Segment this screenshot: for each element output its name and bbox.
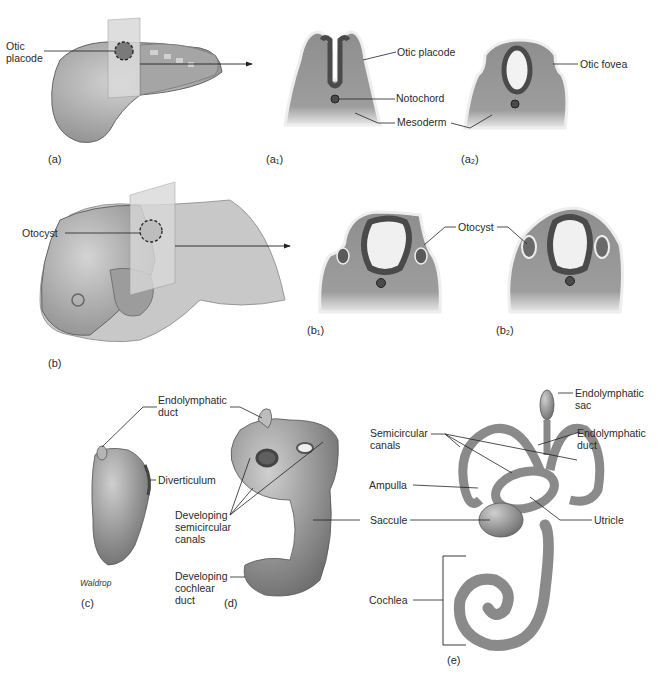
label-endolymphatic-duct-c: Endolymphatic duct xyxy=(158,394,227,418)
artist-credit: Waldrop xyxy=(80,578,112,588)
label-mesoderm: Mesoderm xyxy=(397,116,447,128)
label-utricle: Utricle xyxy=(594,514,624,526)
section-a1 xyxy=(285,32,380,125)
panel-label-e: (e) xyxy=(447,654,460,666)
panel-label-c: (c) xyxy=(81,597,94,609)
panel-label-d: (d) xyxy=(224,597,237,609)
panel-label-a: (a) xyxy=(48,153,61,165)
label-endolymphatic-sac: Endolymphatic sac xyxy=(575,387,644,411)
section-b1 xyxy=(320,212,441,312)
label-otocyst-b1: Otocyst xyxy=(458,221,494,233)
panel-label-a2: (a₂) xyxy=(461,153,479,165)
labyrinth-d xyxy=(231,409,338,596)
label-ampulla: Ampulla xyxy=(369,479,407,491)
panel-label-b2: (b₂) xyxy=(496,324,514,336)
panel-label-b1: (b₁) xyxy=(307,324,324,336)
section-a2 xyxy=(465,40,567,128)
embryo-a xyxy=(52,18,222,143)
label-developing-cochlear-duct: Developing cochlear duct xyxy=(175,570,228,606)
section-b2 xyxy=(509,208,623,312)
label-otic-fovea: Otic fovea xyxy=(580,58,627,70)
label-semicircular-canals: Semicircular canals xyxy=(370,427,428,451)
otic-vesicle-c xyxy=(92,446,150,565)
label-otic-placode-a: Otic placode xyxy=(6,40,43,64)
panel-label-b: (b) xyxy=(48,357,61,369)
label-cochlea: Cochlea xyxy=(369,594,408,606)
label-saccule: Saccule xyxy=(370,514,407,526)
label-diverticulum: Diverticulum xyxy=(158,474,216,486)
label-developing-semicircular-canals: Developing semicircular canals xyxy=(175,509,231,545)
embryo-b xyxy=(40,182,285,342)
panel-label-a1: (a₁) xyxy=(266,153,283,165)
label-endolymphatic-duct-e: Endolymphatic duct xyxy=(577,427,646,451)
label-notochord: Notochord xyxy=(396,92,444,104)
label-otocyst-b: Otocyst xyxy=(22,227,58,239)
label-otic-placode-a1: Otic placode xyxy=(397,46,455,58)
